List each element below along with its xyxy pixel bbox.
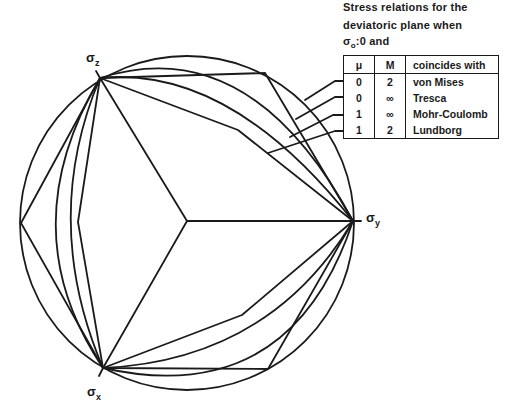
header-mu: μ (344, 56, 375, 74)
table-row: 0 2 von Mises (344, 74, 499, 91)
caption-line-2: deviatoric plane when (343, 19, 462, 31)
header-coincides: coincides with (406, 56, 499, 74)
legend-table: μ M coincides with 0 2 von Mises 0 ∞ Tre… (343, 55, 499, 139)
header-m: M (375, 56, 406, 74)
axis-label-sigma-y: σy (366, 210, 380, 228)
sigma-symbol: σ (343, 35, 351, 47)
axis-z-line (100, 78, 187, 221)
caption-line-1: Stress relations for the (343, 1, 468, 13)
axis-x-line (103, 221, 187, 368)
legend-header-row: μ M coincides with (344, 56, 499, 74)
inner-polygon (78, 78, 353, 368)
table-row: 0 ∞ Tresca (344, 90, 499, 106)
table-row: 1 ∞ Mohr-Coulomb (344, 106, 499, 122)
axis-label-sigma-x: σx (87, 384, 101, 402)
caption-line-3: σo:0 and (343, 35, 389, 50)
axis-label-sigma-z: σz (86, 50, 99, 68)
table-row: 1 2 Lundborg (344, 122, 499, 139)
